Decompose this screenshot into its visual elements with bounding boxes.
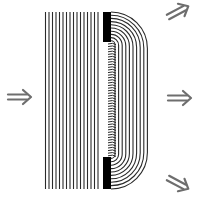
slit-wavelet — [108, 46, 116, 47]
diffraction-diagram — [0, 0, 206, 199]
slit-wavelet — [108, 54, 116, 55]
slit-wavelet — [108, 134, 116, 135]
slit-wavelet — [108, 85, 116, 86]
slit-wavelet — [108, 129, 116, 130]
slit-wavelet — [108, 153, 116, 154]
slit-wavelet — [108, 67, 116, 68]
slit-wavelet — [108, 59, 116, 60]
diffracted-arrow-down-right-icon — [165, 172, 192, 195]
slit-wavelet — [108, 98, 116, 99]
diffracted-arrow-up-right-icon — [165, 0, 192, 23]
slit-wavelet — [108, 88, 116, 89]
slit-wavelet — [108, 132, 116, 133]
slit-wavelet — [108, 77, 116, 78]
slit-wavelet — [108, 90, 116, 91]
slit-wavelet — [108, 119, 116, 120]
slit-wavelet — [108, 43, 116, 44]
slit-wavelet — [108, 80, 116, 81]
slit-wavelet — [108, 103, 116, 104]
slit-wavelet — [108, 49, 116, 50]
barrier-bottom-block — [103, 157, 111, 189]
slit-wavelet — [108, 62, 116, 63]
slit-wavelet — [108, 137, 116, 138]
slit-wavelet — [108, 56, 116, 57]
slit-wavelet — [108, 108, 116, 109]
slit-wavelet — [108, 116, 116, 117]
slit-wavelet — [108, 82, 116, 83]
slit-wavelet — [108, 155, 116, 156]
barrier-top-block — [103, 12, 111, 42]
slit-wavelet — [108, 101, 116, 102]
slit-wavelet — [108, 93, 116, 94]
diffracted-wavefronts — [108, 12, 147, 189]
slit-wavelet — [108, 127, 116, 128]
slit-wavelet — [108, 140, 116, 141]
slit-wavelet — [108, 72, 116, 73]
slit-wavelet — [108, 95, 116, 96]
slit-wavelet — [108, 51, 116, 52]
slit-wavelet — [108, 147, 116, 148]
slit-wavelet — [108, 75, 116, 76]
slit-wavelet — [108, 69, 116, 70]
slit-wavelet — [108, 145, 116, 146]
slit-wavelet — [108, 142, 116, 143]
slit-wavelet — [108, 124, 116, 125]
incident-direction-arrow-icon — [8, 90, 31, 104]
incident-plane-waves — [46, 12, 99, 189]
diffracted-arrow-right-icon — [168, 91, 191, 105]
slit-wavelet — [108, 150, 116, 151]
slit-wavelet — [108, 106, 116, 107]
slit-wavelet — [108, 111, 116, 112]
slit-wavelet — [108, 121, 116, 122]
slit-wavelet — [108, 114, 116, 115]
direction-arrows — [8, 0, 192, 195]
slit-wavelet — [108, 64, 116, 65]
